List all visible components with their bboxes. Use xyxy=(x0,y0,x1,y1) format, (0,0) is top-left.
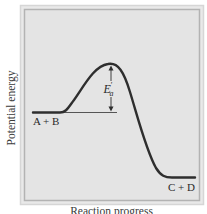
activation-energy-label: E′a xyxy=(103,81,114,98)
energy-diagram: E′a A + B C + D Potential energy Reactio… xyxy=(0,0,207,214)
diagram-canvas: E′a A + B C + D xyxy=(0,0,207,214)
x-axis-label: Reaction progress xyxy=(20,205,203,214)
inner-frame xyxy=(25,10,200,201)
products-label: C + D xyxy=(168,181,195,193)
reactants-label: A + B xyxy=(33,115,59,127)
y-axis-label: Potential energy xyxy=(5,70,17,145)
y-axis-label-container: Potential energy xyxy=(1,50,21,165)
